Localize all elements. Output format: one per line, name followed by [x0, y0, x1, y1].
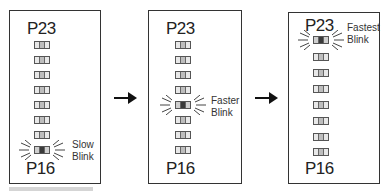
shadow-bar — [9, 187, 93, 191]
label-p16: P16 — [305, 159, 334, 179]
led-2 — [175, 56, 191, 64]
panel-slow-blink: P23 Slow Blink P16 — [9, 10, 101, 184]
note-line1: Faster — [211, 95, 239, 107]
panel-fastest-blink: P23 Fastest Blink P16 — [288, 12, 380, 184]
led-6 — [175, 116, 191, 124]
led-4 — [175, 86, 191, 94]
led-1 — [34, 41, 50, 49]
label-p16: P16 — [26, 159, 55, 179]
blink-rays-icon — [160, 95, 206, 115]
led-7 — [34, 131, 50, 139]
led-6 — [34, 116, 50, 124]
panel-faster-blink: P23 Faster Blink P16 — [148, 10, 242, 184]
led-4 — [313, 85, 329, 93]
led-6 — [313, 117, 329, 125]
led-5 — [34, 101, 50, 109]
label-p23: P23 — [27, 19, 56, 39]
led-7 — [313, 133, 329, 141]
note-line1: Fastest — [347, 22, 380, 34]
led-8 — [175, 146, 191, 154]
led-3 — [313, 69, 329, 77]
led-5 — [313, 101, 329, 109]
led-2 — [34, 56, 50, 64]
led-3 — [175, 71, 191, 79]
led-8 — [313, 148, 329, 156]
led-3 — [34, 71, 50, 79]
note-line2: Blink — [72, 151, 94, 163]
led-1 — [175, 41, 191, 49]
blink-rays-icon — [298, 30, 344, 50]
led-7 — [175, 131, 191, 139]
label-p16: P16 — [166, 159, 195, 179]
note-line2: Blink — [347, 34, 369, 46]
arrow-right-icon — [255, 97, 271, 99]
led-2 — [313, 53, 329, 61]
note-line1: Slow — [72, 139, 94, 151]
label-p23: P23 — [166, 19, 195, 39]
led-4 — [34, 86, 50, 94]
note-line2: Blink — [211, 107, 233, 119]
blink-rays-icon — [19, 140, 65, 160]
arrow-right-icon — [114, 97, 130, 99]
